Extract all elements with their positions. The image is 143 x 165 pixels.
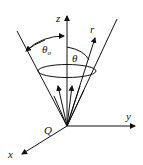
theta-o-subscript: o <box>47 49 51 57</box>
cone-diagram: z y x Q r θ θo <box>0 0 143 165</box>
theta-label: θ <box>72 52 78 64</box>
origin-label-Q: Q <box>44 124 52 136</box>
field-arrow-1 <box>58 86 67 126</box>
field-line-3 <box>54 96 67 126</box>
x-axis-label: x <box>7 148 13 160</box>
field-line-4 <box>67 86 80 126</box>
r-label: r <box>90 23 95 35</box>
theta-arc <box>67 47 89 60</box>
z-axis-label: z <box>55 12 61 24</box>
theta-o-label: θo <box>42 43 51 57</box>
y-axis-label: y <box>125 110 131 122</box>
